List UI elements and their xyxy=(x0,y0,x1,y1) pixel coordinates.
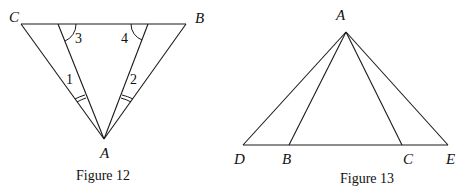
angle-label-2: 2 xyxy=(130,72,137,87)
point-label-c: C xyxy=(403,151,414,167)
figure-13-caption: Figure 13 xyxy=(340,171,394,186)
angle-label-3: 3 xyxy=(75,31,82,46)
point-label-a: A xyxy=(335,7,346,23)
point-label-b: B xyxy=(282,151,291,167)
figure-12-caption: Figure 12 xyxy=(76,168,130,183)
point-label-c: C xyxy=(9,9,20,25)
angle-2-arc-inner xyxy=(121,98,131,102)
angle-label-4: 4 xyxy=(121,31,128,46)
geometry-figures: C B A 1 2 3 4 Figure 12 A D B C E Figure… xyxy=(0,0,463,191)
point-label-e: E xyxy=(445,151,455,167)
segment-ba xyxy=(104,24,186,139)
angle-4-arc xyxy=(131,24,142,40)
figure-13: A D B C E Figure 13 xyxy=(233,7,455,186)
angle-1-arc-inner xyxy=(77,98,86,102)
figure-12: C B A 1 2 3 4 Figure 12 xyxy=(9,9,204,183)
segment-ad xyxy=(243,32,346,145)
segment-ae xyxy=(346,32,448,145)
angle-label-1: 1 xyxy=(66,72,73,87)
point-label-d: D xyxy=(233,151,245,167)
segment-ca xyxy=(21,24,104,139)
point-label-a: A xyxy=(99,145,110,161)
segment-ab xyxy=(289,32,346,145)
segment-ac xyxy=(346,32,402,145)
point-label-b: B xyxy=(195,10,204,26)
